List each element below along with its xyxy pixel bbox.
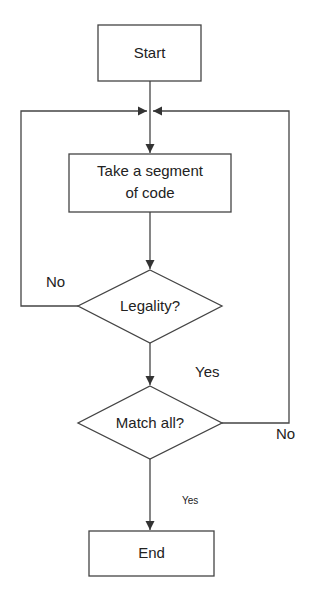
match-all-label: Match all?: [78, 413, 222, 433]
end-label: End: [89, 543, 214, 563]
start-label: Start: [98, 43, 201, 63]
match-no-label: No: [276, 425, 295, 442]
match-yes-label: Yes: [182, 495, 198, 506]
legality-no-label: No: [46, 273, 65, 290]
legality-label: Legality?: [78, 296, 222, 316]
take-segment-label-line2: of code: [69, 183, 231, 203]
take-segment-label-line1: Take a segment: [69, 161, 231, 181]
legality-yes-label: Yes: [195, 363, 219, 380]
